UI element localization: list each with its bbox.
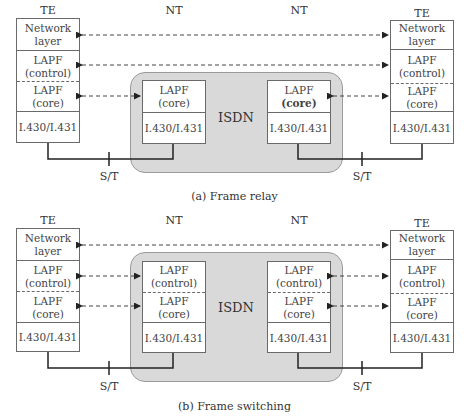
connections-frame-switching xyxy=(0,0,469,420)
wire-left xyxy=(48,352,173,368)
st-label-right: S/T xyxy=(348,380,376,393)
st-label-left: S/T xyxy=(95,380,123,393)
wire-right xyxy=(298,353,422,368)
caption-frame-switching: (b) Frame switching xyxy=(0,400,469,413)
